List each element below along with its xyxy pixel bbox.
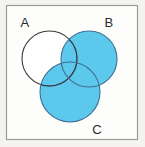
venn-diagram-canvas: A B C [0, 0, 145, 147]
set-c-label: C [92, 122, 102, 137]
venn-diagram-figure: A B C [0, 0, 145, 147]
set-b-label: B [105, 15, 114, 30]
set-a-label: A [21, 15, 30, 30]
